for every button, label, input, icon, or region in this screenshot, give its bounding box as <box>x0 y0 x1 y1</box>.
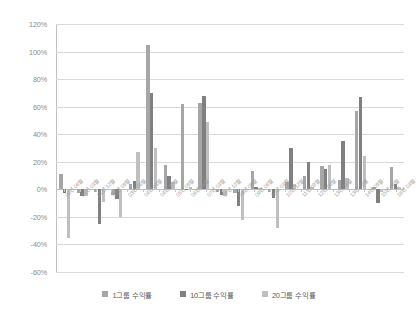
bar <box>303 176 306 190</box>
gridline <box>56 272 404 273</box>
bars-layer <box>56 24 404 272</box>
bar-group <box>126 24 143 272</box>
bar-group <box>282 24 299 272</box>
bar <box>324 169 327 190</box>
bar <box>390 167 393 189</box>
bar <box>328 165 331 190</box>
bar <box>136 152 139 189</box>
bar-group <box>247 24 264 272</box>
bar <box>338 180 341 190</box>
plot-area <box>56 24 404 272</box>
bar <box>363 156 366 189</box>
bar <box>380 189 383 192</box>
legend-label: 10그룹 수익률 <box>190 289 234 300</box>
bar <box>198 103 201 190</box>
bar-group <box>195 24 212 272</box>
bar <box>293 184 296 190</box>
bar <box>80 189 83 196</box>
bar-group <box>178 24 195 272</box>
y-tick-label: 100% <box>29 47 47 56</box>
bar <box>254 187 257 190</box>
bar-group <box>317 24 334 272</box>
y-tick-label: -40% <box>31 240 47 249</box>
bar <box>94 189 97 192</box>
bar <box>154 148 157 189</box>
bar <box>67 189 70 237</box>
bar <box>185 189 188 190</box>
bar <box>320 166 323 189</box>
chart-legend: 1그룹 수익률10그룹 수익률20그룹 수익률 <box>0 286 418 302</box>
bar-group <box>352 24 369 272</box>
bar <box>189 187 192 190</box>
bar <box>77 189 80 193</box>
bar <box>258 188 261 189</box>
bar <box>272 189 275 197</box>
bar <box>223 189 226 196</box>
bar <box>341 141 344 189</box>
legend-item[interactable]: 20그룹 수익률 <box>262 289 316 300</box>
bar <box>307 162 310 190</box>
bar <box>310 187 313 190</box>
chart-container: 120%100%80%60%40%20%0%-20%-40%-60% 00년 0… <box>0 0 418 315</box>
bar <box>63 189 66 193</box>
y-axis-labels: 120%100%80%60%40%20%0%-20%-40%-60% <box>0 0 54 280</box>
bar <box>251 171 254 189</box>
bar-group <box>56 24 73 272</box>
bar <box>84 189 87 196</box>
bar-group <box>160 24 177 272</box>
bar <box>285 182 288 189</box>
bar <box>102 189 105 201</box>
bar <box>129 184 132 190</box>
bar <box>150 93 153 189</box>
legend-swatch-icon <box>262 291 268 297</box>
bar <box>98 189 101 223</box>
bar <box>289 148 292 189</box>
bar-group <box>108 24 125 272</box>
y-tick-label: 120% <box>29 20 47 29</box>
bar <box>376 189 379 203</box>
bar <box>202 96 205 190</box>
bar-group <box>369 24 386 272</box>
bar <box>133 181 136 189</box>
bar <box>146 45 149 190</box>
bar <box>397 187 400 190</box>
bar <box>111 189 114 195</box>
bar-group <box>91 24 108 272</box>
y-tick-label: 80% <box>33 75 47 84</box>
bar <box>241 189 244 219</box>
y-tick-label: 60% <box>33 102 47 111</box>
bar-group <box>73 24 90 272</box>
bar <box>372 187 375 190</box>
y-tick-label: -20% <box>31 212 47 221</box>
bar <box>115 189 118 199</box>
bar <box>119 189 122 217</box>
legend-item[interactable]: 10그룹 수익률 <box>180 289 234 300</box>
bar <box>216 189 219 192</box>
bar <box>171 182 174 189</box>
bar <box>237 189 240 206</box>
bar <box>355 111 358 190</box>
bar <box>59 174 62 189</box>
bar-group <box>143 24 160 272</box>
bar <box>206 122 209 190</box>
bar <box>181 104 184 189</box>
legend-swatch-icon <box>102 291 108 297</box>
bar <box>220 189 223 195</box>
bar-group <box>300 24 317 272</box>
bar <box>345 178 348 189</box>
bar-group <box>334 24 351 272</box>
legend-item[interactable]: 1그룹 수익률 <box>102 289 152 300</box>
plot-wrapper: 120%100%80%60%40%20%0%-20%-40%-60% 00년 0… <box>0 0 418 280</box>
bar-group <box>230 24 247 272</box>
bar <box>233 189 236 193</box>
bar <box>276 189 279 228</box>
bar-group <box>265 24 282 272</box>
bar <box>164 165 167 190</box>
bar <box>394 184 397 190</box>
y-tick-label: -60% <box>31 268 47 277</box>
y-tick-label: 40% <box>33 130 47 139</box>
legend-label: 20그룹 수익률 <box>272 289 316 300</box>
legend-swatch-icon <box>180 291 186 297</box>
bar <box>359 97 362 189</box>
bar-group <box>213 24 230 272</box>
